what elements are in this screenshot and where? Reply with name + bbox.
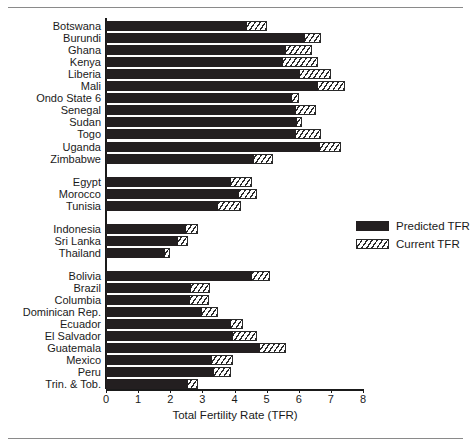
- bar-row-label: Peru: [1, 366, 104, 378]
- bar-row-label: Botswana: [1, 20, 104, 32]
- bar-row: El Salvador: [0, 330, 471, 342]
- bar-row-label: Ondo State 6: [1, 92, 104, 104]
- bar-row: Peru: [0, 366, 471, 378]
- bar-row: Uganda: [0, 141, 471, 153]
- figure-container: 012345678 BotswanaBurundiGhanaKenyaLiber…: [0, 0, 471, 447]
- bar-predicted-tfr: [106, 154, 254, 164]
- bar-row-label: Togo: [1, 128, 104, 140]
- bar-predicted-tfr: [106, 343, 260, 353]
- bar-row-label: Senegal: [1, 104, 104, 116]
- bar-predicted-tfr: [106, 248, 165, 258]
- x-tick-label-1: 1: [128, 393, 148, 406]
- bar-row: Togo: [0, 128, 471, 140]
- bar-row-label: Thailand: [1, 247, 104, 259]
- x-tick-label-2: 2: [160, 393, 180, 406]
- bar-row: Kenya: [0, 56, 471, 68]
- bar-row: Ondo State 6: [0, 92, 471, 104]
- bar-row-label: Guatemala: [1, 342, 104, 354]
- bar-row: Mali: [0, 80, 471, 92]
- bar-predicted-tfr: [106, 129, 296, 139]
- bar-row: Ecuador: [0, 318, 471, 330]
- bar-row-label: Mexico: [1, 354, 104, 366]
- bar-predicted-tfr: [106, 307, 202, 317]
- bar-predicted-tfr: [106, 319, 231, 329]
- bar-row-label: Bolivia: [1, 270, 104, 282]
- bar-predicted-tfr: [106, 57, 283, 67]
- bar-row-label: Sri Lanka: [1, 235, 104, 247]
- bar-row: Botswana: [0, 20, 471, 32]
- bar-row-label: Morocco: [1, 188, 104, 200]
- bar-row-label: Dominican Rep.: [1, 306, 104, 318]
- bar-predicted-tfr: [106, 367, 214, 377]
- x-tick-label-8: 8: [353, 393, 373, 406]
- bar-predicted-tfr: [106, 69, 300, 79]
- bar-predicted-tfr: [106, 283, 191, 293]
- bar-row-label: Indonesia: [1, 223, 104, 235]
- legend-label-current: Current TFR: [396, 237, 460, 251]
- bar-predicted-tfr: [106, 81, 318, 91]
- bar-row-label: Sudan: [1, 116, 104, 128]
- legend-swatch-current-icon: [356, 239, 389, 249]
- bar-predicted-tfr: [106, 189, 239, 199]
- legend-swatch-predicted-icon: [356, 221, 389, 231]
- bar-predicted-tfr: [106, 117, 297, 127]
- bar-predicted-tfr: [106, 236, 178, 246]
- bar-row-label: Tunisia: [1, 200, 104, 212]
- x-tick-label-7: 7: [321, 393, 341, 406]
- bar-row: Guatemala: [0, 342, 471, 354]
- bar-row: Sudan: [0, 116, 471, 128]
- bar-predicted-tfr: [106, 224, 186, 234]
- chart-legend: Predicted TFR Current TFR: [356, 219, 468, 255]
- x-tick-label-4: 4: [225, 393, 245, 406]
- bar-row: Trin. & Tob.: [0, 378, 471, 390]
- x-tick-label-0: 0: [96, 393, 116, 406]
- bar-row: Ghana: [0, 44, 471, 56]
- bar-row-label: Uganda: [1, 141, 104, 153]
- bar-row-label: Egypt: [1, 176, 104, 188]
- bar-row: Egypt: [0, 176, 471, 188]
- bar-row: Columbia: [0, 294, 471, 306]
- bar-predicted-tfr: [106, 379, 188, 389]
- bar-row-label: Columbia: [1, 294, 104, 306]
- bar-predicted-tfr: [106, 271, 252, 281]
- bar-row-label: Kenya: [1, 56, 104, 68]
- bar-predicted-tfr: [106, 105, 296, 115]
- x-tick-label-5: 5: [257, 393, 277, 406]
- x-tick-label-6: 6: [289, 393, 309, 406]
- legend-item-predicted: Predicted TFR: [356, 219, 468, 234]
- bar-row-label: Burundi: [1, 32, 104, 44]
- x-axis-label: Total Fertility Rate (TFR): [106, 409, 364, 421]
- bar-row: Zimbabwe: [0, 153, 471, 165]
- bar-predicted-tfr: [106, 355, 212, 365]
- bar-predicted-tfr: [106, 142, 320, 152]
- x-tick-label-3: 3: [192, 393, 212, 406]
- legend-label-predicted: Predicted TFR: [396, 219, 470, 233]
- bar-row: Bolivia: [0, 270, 471, 282]
- bar-predicted-tfr: [106, 45, 286, 55]
- bar-predicted-tfr: [106, 331, 233, 341]
- bar-predicted-tfr: [106, 295, 190, 305]
- bar-row-label: Brazil: [1, 282, 104, 294]
- bar-predicted-tfr: [106, 21, 247, 31]
- bar-row-label: Trin. & Tob.: [1, 378, 104, 390]
- bar-row-label: Zimbabwe: [1, 153, 104, 165]
- bar-row-label: Mali: [1, 80, 104, 92]
- legend-item-current: Current TFR: [356, 237, 468, 252]
- bar-row: Senegal: [0, 104, 471, 116]
- bar-row-label: Liberia: [1, 68, 104, 80]
- bar-predicted-tfr: [106, 177, 231, 187]
- bar-row: Brazil: [0, 282, 471, 294]
- bar-row-label: El Salvador: [1, 330, 104, 342]
- bar-predicted-tfr: [106, 201, 218, 211]
- bar-predicted-tfr: [106, 93, 292, 103]
- bar-row: Liberia: [0, 68, 471, 80]
- bar-row: Morocco: [0, 188, 471, 200]
- bar-row: Dominican Rep.: [0, 306, 471, 318]
- bar-row: Burundi: [0, 32, 471, 44]
- bar-predicted-tfr: [106, 33, 305, 43]
- bar-row: Tunisia: [0, 200, 471, 212]
- bar-row: Mexico: [0, 354, 471, 366]
- bar-row-label: Ecuador: [1, 318, 104, 330]
- bar-row-label: Ghana: [1, 44, 104, 56]
